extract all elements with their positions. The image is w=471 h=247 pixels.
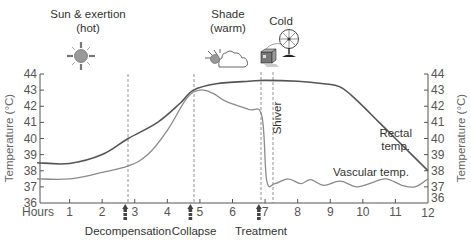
- x-ticks: 123456789101112: [66, 199, 435, 220]
- y-tick-label-right: 38: [431, 164, 445, 178]
- event-lines: [128, 72, 273, 203]
- x-tick-label: 9: [327, 205, 334, 219]
- y-tick-label: 41: [24, 115, 38, 129]
- phase-sub-sun: (hot): [76, 22, 100, 34]
- y-tick-label: 43: [24, 83, 38, 97]
- y-tick-label: 40: [24, 132, 38, 146]
- y-tick-label-right: 43: [431, 83, 445, 97]
- y-axis-title-left: Temperature (°C): [3, 94, 15, 182]
- x-tick-label: 5: [197, 205, 204, 219]
- y-tick-label-right: 42: [431, 99, 445, 113]
- vascular-label: Vascular temp.: [333, 166, 409, 178]
- ice-box-and-fan-icon: [261, 30, 299, 68]
- event-markers: [122, 204, 262, 220]
- phase-title-sun: Sun & exertion: [50, 8, 125, 20]
- shiver-label: Shiver: [271, 102, 283, 135]
- phase-title-cold: Cold: [269, 15, 293, 27]
- y-tick-label-right: 44: [431, 67, 445, 81]
- phase-sub-shade: (warm): [210, 22, 246, 34]
- x-tick-label: 8: [294, 205, 301, 219]
- y-tick-label: 44: [24, 67, 38, 81]
- x-tick-label: 1: [66, 205, 73, 219]
- x-tick-label: 4: [164, 205, 171, 219]
- arrow-up-icon: [122, 204, 128, 209]
- sun-icon: [67, 42, 95, 70]
- x-tick-label: 2: [99, 205, 106, 219]
- y-tick-label: 37: [24, 180, 38, 194]
- y-tick-label: 38: [24, 164, 38, 178]
- rectal-label-2: temp.: [381, 140, 410, 152]
- chart: Sun & exertion (hot) Shade (warm) Cold: [0, 0, 471, 247]
- x-tick-label: 3: [131, 205, 138, 219]
- x-axis-label: Hours: [22, 205, 54, 219]
- arrow-up-icon: [187, 204, 193, 209]
- y-axis-title-right: Temperature (°C): [455, 94, 467, 182]
- x-tick-label: 10: [356, 205, 370, 219]
- rectal-temp-curve: [37, 80, 428, 170]
- y-tick-label-right: 39: [431, 148, 445, 162]
- y-tick-label: 42: [24, 99, 38, 113]
- y-tick-label-right: 41: [431, 115, 445, 129]
- sun-behind-cloud-icon: [205, 49, 248, 67]
- x-tick-label: 7: [262, 205, 269, 219]
- phase-title-shade: Shade: [211, 8, 244, 20]
- x-tick-label: 12: [421, 206, 435, 220]
- x-tick-label: 11: [389, 205, 402, 219]
- event-decompensation: Decompensation: [85, 225, 171, 237]
- event-treatment: Treatment: [235, 225, 288, 237]
- event-collapse: Collapse: [172, 225, 217, 237]
- y-tick-label-right: 40: [431, 132, 445, 146]
- rectal-label-1: Rectal: [379, 127, 412, 139]
- x-tick-label: 6: [229, 205, 236, 219]
- y-tick-label: 39: [24, 148, 38, 162]
- y-tick-label-right: 37: [431, 180, 445, 194]
